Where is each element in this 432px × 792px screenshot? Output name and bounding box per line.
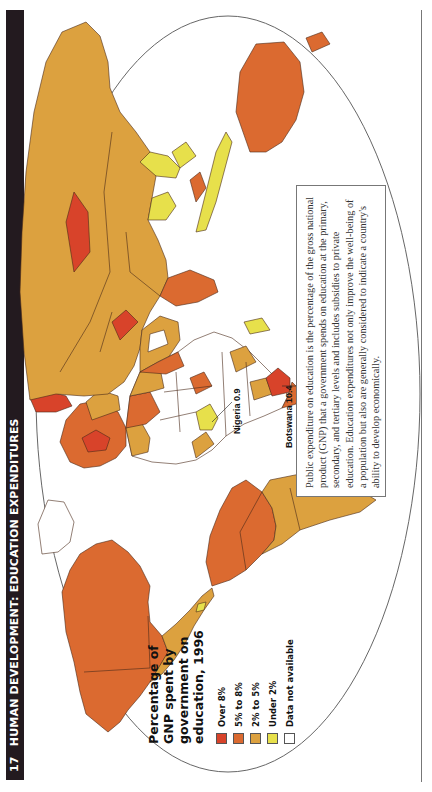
legend-item-2-to-5: 2% to 5%	[248, 594, 263, 744]
swatch-under-2	[267, 733, 278, 744]
bottom-divider	[421, 10, 422, 782]
info-text-box: Public expenditure on education is the p…	[296, 185, 386, 497]
swatch-5-to-8	[233, 733, 244, 744]
swatch-2-to-5	[250, 733, 261, 744]
nigeria-callout: Nigeria 0.9	[232, 388, 242, 434]
legend-item-under-2: Under 2%	[265, 594, 280, 744]
atlas-page: 17 HUMAN DEVELOPMENT: EDUCATION EXPENDIT…	[0, 0, 432, 792]
legend-item-no-data: Data not available	[282, 594, 297, 744]
map-legend: Percentage of GNP spent by government on…	[146, 594, 299, 744]
legend-item-over-8: Over 8%	[214, 594, 229, 744]
legend-item-5-to-8: 5% to 8%	[231, 594, 246, 744]
swatch-over-8	[216, 733, 227, 744]
swatch-no-data	[284, 733, 295, 744]
legend-title: Percentage of GNP spent by government on…	[146, 594, 206, 744]
botswana-callout: Botswana 10.4	[284, 385, 294, 448]
